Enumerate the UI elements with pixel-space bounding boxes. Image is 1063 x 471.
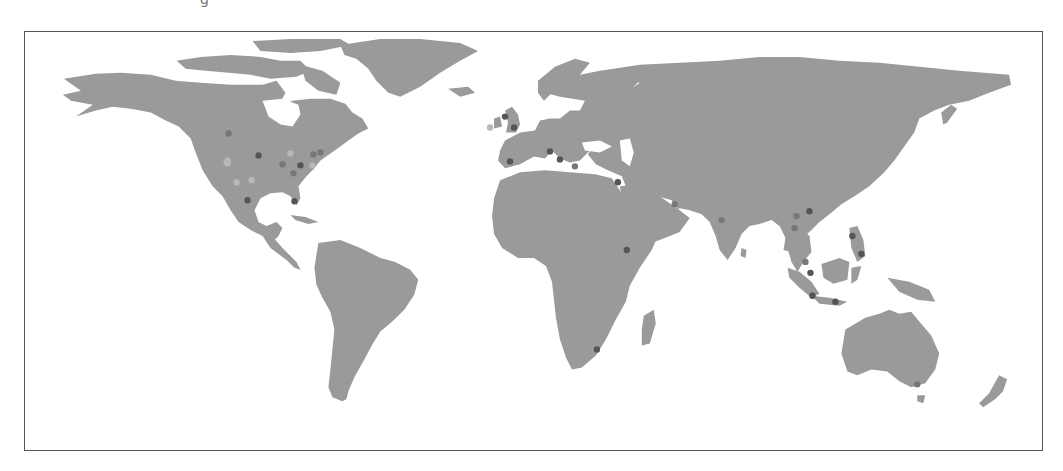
map-point-marker[interactable]: US - New York [310, 151, 316, 157]
map-point-marker[interactable]: Canada - Manitoba [225, 130, 231, 136]
ireland [494, 117, 502, 129]
map-point-marker[interactable]: Singapore [807, 270, 813, 276]
arctic-islands [177, 55, 311, 79]
baffin-island [300, 65, 340, 95]
new-zealand [979, 375, 1007, 407]
map-point-marker[interactable]: Israel [615, 179, 621, 185]
sri-lanka [741, 248, 747, 258]
map-title: g [200, 0, 209, 7]
map-point-marker[interactable]: US - Oklahoma [248, 177, 254, 183]
map-point-marker[interactable]: China - Guangzhou [806, 208, 812, 214]
map-point-marker[interactable]: US - Ohio [297, 162, 303, 168]
map-point-marker[interactable]: Philippines - Luzon [849, 233, 855, 239]
map-point-marker[interactable]: Italy - North [547, 148, 553, 154]
borneo [821, 258, 849, 284]
south-america [314, 240, 418, 401]
map-point-marker[interactable]: US - Michigan [287, 150, 293, 156]
map-point-marker[interactable]: US - Minnesota [255, 152, 261, 158]
australia [841, 310, 939, 388]
map-point-marker[interactable]: India - Mumbai [718, 217, 724, 223]
cuba [290, 215, 318, 224]
java [811, 296, 847, 306]
map-point-marker[interactable]: Italy - South [557, 156, 563, 162]
iceland [448, 87, 475, 97]
north-america [63, 73, 368, 242]
new-guinea [887, 278, 935, 302]
map-point-marker[interactable]: US - Illinois [279, 161, 285, 167]
map-point-marker[interactable]: Indonesia - Jakarta [809, 293, 815, 299]
sakhalin [941, 105, 957, 125]
map-point-marker[interactable]: US - Boston [317, 149, 323, 155]
map-point-marker[interactable]: South Africa [594, 346, 600, 352]
map-point-marker[interactable]: Ethiopia [624, 247, 630, 253]
sumatra [788, 268, 820, 298]
central-america [263, 236, 301, 270]
sulawesi [851, 266, 861, 284]
map-point-marker[interactable]: Ireland [487, 124, 493, 130]
map-point-marker[interactable]: Australia - Melbourne [914, 381, 920, 387]
map-point-marker[interactable]: US - Virginia [309, 162, 315, 168]
map-point-marker[interactable]: UAE [672, 201, 678, 207]
map-point-marker[interactable]: US - Arizona [233, 179, 239, 185]
map-point-marker[interactable]: US - Texas [244, 197, 250, 203]
map-point-marker[interactable]: Philippines - Mindanao [858, 251, 864, 257]
madagascar [642, 310, 656, 346]
map-point-marker[interactable]: US - Florida [291, 198, 297, 204]
tasmania [917, 395, 925, 403]
map-point-marker[interactable]: US - Tennessee [290, 170, 296, 176]
map-point-marker[interactable]: Indonesia - Java East [832, 299, 838, 305]
map-point-marker[interactable]: Spain [507, 158, 513, 164]
world-map[interactable]: Canada - ManitobaUS - MontanaUS - UtahUS… [24, 31, 1043, 451]
map-point-marker[interactable]: Malaysia [802, 259, 808, 265]
map-point-marker[interactable]: US - Colorado [223, 159, 229, 165]
map-point-marker[interactable]: Vietnam - Hanoi [793, 213, 799, 219]
map-point-marker[interactable]: UK - England [511, 124, 517, 130]
map-point-marker[interactable]: UK - Scotland [502, 113, 508, 119]
ellesmere [253, 39, 351, 53]
map-point-marker[interactable]: Thailand [791, 225, 797, 231]
world-map-svg: Canada - ManitobaUS - MontanaUS - UtahUS… [25, 32, 1042, 450]
map-point-marker[interactable]: Greece [572, 163, 578, 169]
